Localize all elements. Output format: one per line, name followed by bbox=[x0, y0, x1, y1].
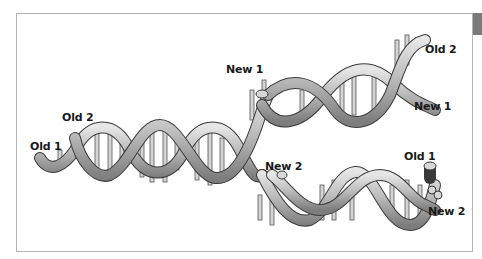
label-new2-right: New 2 bbox=[428, 205, 465, 218]
label-new1-right: New 1 bbox=[414, 100, 451, 113]
label-old2-right: Old 2 bbox=[425, 43, 456, 56]
dna-helix-illustration bbox=[0, 0, 482, 259]
label-old2-left: Old 2 bbox=[62, 111, 93, 124]
label-old1-left: Old 1 bbox=[30, 140, 61, 153]
label-new2-mid: New 2 bbox=[265, 160, 302, 173]
label-old1-right: Old 1 bbox=[404, 150, 435, 163]
label-new1-top: New 1 bbox=[226, 63, 263, 76]
